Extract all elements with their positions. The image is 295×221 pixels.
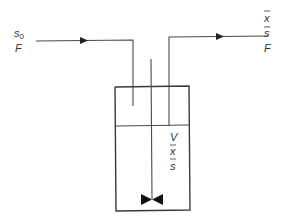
chemostat-diagram: s0 F x s F V x s bbox=[0, 0, 295, 221]
outlet-substrate-label: s bbox=[264, 27, 270, 39]
inlet-pipe bbox=[36, 40, 133, 106]
outlet-stream bbox=[169, 33, 268, 126]
impeller-left-blade-icon bbox=[141, 194, 152, 205]
outlet-flow-label: F bbox=[264, 42, 272, 54]
stirrer-shaft bbox=[151, 59, 152, 199]
impeller-right-blade-icon bbox=[152, 194, 163, 205]
inlet-flow-label: F bbox=[15, 42, 23, 54]
vessel-substrate-label: s bbox=[170, 160, 176, 172]
inlet-stream bbox=[36, 37, 133, 106]
outlet-labels: x s F bbox=[263, 11, 272, 54]
stirrer bbox=[141, 59, 163, 205]
inlet-substrate-label: s0 bbox=[14, 27, 25, 41]
vessel-volume-label: V bbox=[170, 131, 179, 143]
outlet-pipe bbox=[169, 36, 268, 126]
liquid-level-line bbox=[116, 125, 189, 126]
inlet-arrow-icon bbox=[80, 37, 88, 44]
vessel-biomass-label: x bbox=[169, 145, 176, 157]
outlet-biomass-label: x bbox=[263, 12, 270, 24]
outlet-arrow-icon bbox=[216, 33, 224, 40]
vessel-labels: V x s bbox=[169, 131, 179, 172]
